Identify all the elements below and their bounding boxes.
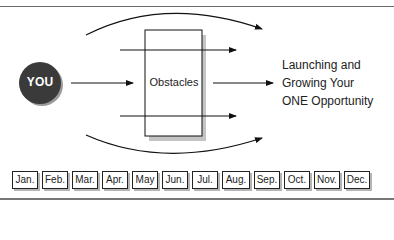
goal-line-1: Launching and <box>282 56 373 74</box>
goal-line-3: ONE Opportunity <box>282 92 373 110</box>
month-sep: Sep. <box>254 171 280 189</box>
month-may: May <box>132 171 158 189</box>
month-feb: Feb. <box>42 171 68 189</box>
month-mar: Mar. <box>72 171 98 189</box>
month-jul: Jul. <box>192 171 218 189</box>
month-timeline: Jan. Feb. Mar. Apr. May Jun. Jul. Aug. S… <box>12 171 370 189</box>
month-dec: Dec. <box>344 171 370 189</box>
month-jun: Jun. <box>162 171 188 189</box>
obstacles-label: Obstacles <box>146 76 202 88</box>
you-label: YOU <box>19 75 61 89</box>
month-apr: Apr. <box>102 171 128 189</box>
month-oct: Oct. <box>284 171 310 189</box>
goal-text: Launching and Growing Your ONE Opportuni… <box>282 56 373 110</box>
goal-line-2: Growing Your <box>282 74 373 92</box>
month-nov: Nov. <box>314 171 340 189</box>
bottom-divider <box>0 198 394 200</box>
month-aug: Aug. <box>222 171 250 189</box>
month-jan: Jan. <box>12 171 38 189</box>
